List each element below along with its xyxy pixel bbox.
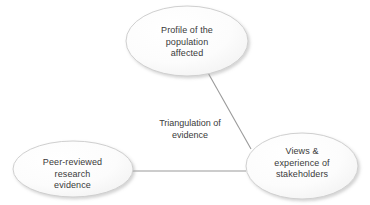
node-ellipse-left[interactable] [13, 141, 133, 197]
node-ellipse-top[interactable] [126, 6, 248, 76]
triangulation-diagram: Profile of the population affected Peer-… [0, 0, 370, 205]
node-ellipse-right[interactable] [246, 133, 358, 199]
diagram-canvas [0, 0, 370, 205]
center-label-triangulation: Triangulation of evidence [140, 118, 240, 141]
